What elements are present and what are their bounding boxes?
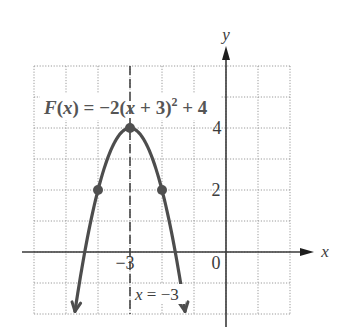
equation-variable: x — [125, 97, 136, 118]
parabola-chart: x y 0 −3 4 2 F(x) = −2(x + 3)2 + 4 x = −… — [0, 0, 347, 334]
equation-function-name: F — [43, 97, 57, 118]
axis-of-symmetry-label: x = −3 — [134, 285, 179, 304]
y-tick-label-2: 2 — [212, 180, 221, 200]
x-axis-arrow-icon — [300, 248, 314, 256]
y-axis-label: y — [220, 25, 230, 44]
y-axis — [222, 46, 230, 327]
y-tick-label-4: 4 — [213, 118, 222, 138]
x-axis-label: x — [320, 242, 329, 261]
plotted-point — [125, 123, 135, 133]
equation-variable: x — [62, 97, 73, 118]
equation-part: + 3) — [135, 97, 171, 119]
plotted-point — [157, 185, 167, 195]
equation-label: F(x) = −2(x + 3)2 + 4 — [43, 95, 208, 119]
parabola-curve — [75, 128, 185, 311]
origin-label: 0 — [212, 253, 221, 273]
x-tick-label-neg3: −3 — [115, 253, 134, 273]
plotted-point — [93, 185, 103, 195]
equation-part: + 4 — [177, 97, 207, 118]
symmetry-value: = −3 — [143, 285, 179, 304]
y-axis-arrow-icon — [222, 46, 230, 60]
equation-part: ) = −2( — [73, 97, 126, 119]
